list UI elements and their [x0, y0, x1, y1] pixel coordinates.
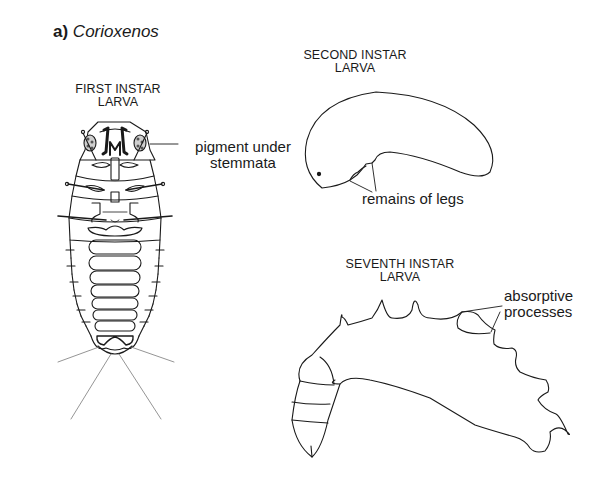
seventh-instar-larva-drawing — [292, 300, 569, 457]
second-instar-larva-drawing — [305, 92, 492, 192]
diagram-drawings — [0, 0, 610, 496]
first-instar-larva-drawing — [58, 122, 178, 419]
